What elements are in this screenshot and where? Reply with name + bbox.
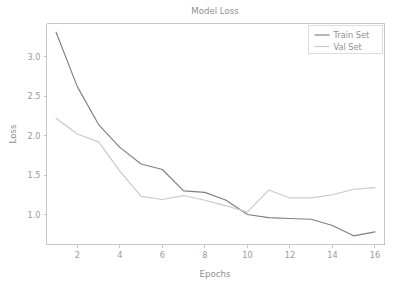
x-tick-label: 14 [327,250,337,260]
y-tick-label: 1.5 [27,170,40,180]
x-axis-label: Epochs [200,269,231,279]
x-tick-label: 4 [117,250,122,260]
chart-figure: 1.01.52.02.53.0 246810121416 Model Loss … [0,0,411,285]
y-tick-label: 3.0 [27,52,40,62]
legend-label-train-set: Train Set [333,30,370,40]
y-tick-label: 2.0 [27,131,40,141]
chart-title: Model Loss [191,6,239,16]
x-tick-label: 10 [242,250,252,260]
x-tick-label: 12 [285,250,295,260]
legend-label-val-set: Val Set [334,42,363,52]
chart-legend: Train SetVal Set [309,26,383,54]
y-tick-label: 1.0 [27,210,40,220]
y-axis-label: Loss [8,124,18,143]
x-tick-label: 8 [202,250,207,260]
x-tick-label: 2 [75,250,80,260]
model-loss-line-chart: 1.01.52.02.53.0 246810121416 Model Loss … [0,0,411,285]
x-tick-label: 6 [160,250,165,260]
x-tick-label: 16 [370,250,380,260]
y-tick-label: 2.5 [27,91,40,101]
